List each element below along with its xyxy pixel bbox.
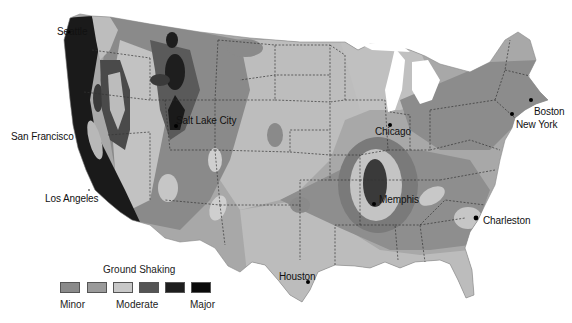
city-dot-memphis [372, 202, 376, 206]
zone-nebraska-mid [267, 123, 283, 147]
city-dot-los-angeles [88, 189, 90, 191]
legend-title: Ground Shaking [103, 264, 175, 275]
city-label-los-angeles: Los Angeles [45, 193, 98, 204]
zone-idaho-core [150, 74, 170, 86]
city-dot-new-york [510, 112, 514, 116]
legend-swatch-level-5 [165, 282, 185, 293]
city-dot-charleston [474, 216, 479, 221]
ground-shaking-legend: Ground Shaking Minor Moderate Major [60, 262, 220, 318]
city-dot-boston [529, 98, 533, 102]
legend-label-major: Major [190, 299, 215, 310]
city-label-seattle: Seattle [57, 26, 87, 37]
legend-swatch-level-3 [113, 282, 133, 293]
city-label-houston: Houston [279, 271, 316, 282]
zone-montana-east [227, 39, 263, 57]
legend-swatch-level-1 [60, 282, 80, 293]
city-label-salt-lake-city: Salt Lake City [176, 115, 236, 126]
zone-montana-core [166, 32, 178, 48]
legend-label-minor: Minor [60, 299, 85, 310]
zone-az-light [158, 174, 178, 202]
city-label-charleston: Charleston [483, 215, 530, 226]
city-label-chicago: Chicago [375, 126, 411, 137]
city-label-memphis: Memphis [379, 194, 419, 205]
zone-yellowstone [165, 54, 185, 90]
city-label-boston: Boston [534, 106, 565, 117]
legend-swatch-level-2 [87, 282, 107, 293]
legend-swatch-level-4 [139, 282, 159, 293]
city-label-san-francisco: San Francisco [11, 131, 74, 142]
city-label-new-york: New York [516, 119, 557, 130]
legend-swatch-level-6 [191, 282, 211, 293]
legend-label-moderate: Moderate [116, 299, 158, 310]
